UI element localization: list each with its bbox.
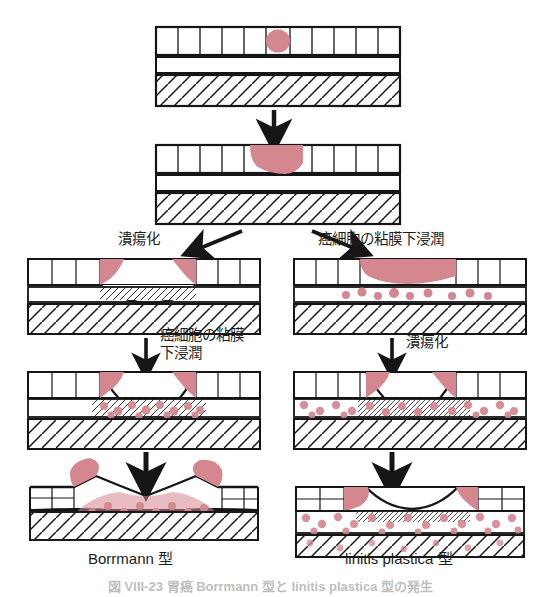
tumor-focus bbox=[266, 30, 290, 53]
panel-mucosal-tumor bbox=[156, 145, 400, 224]
caption-linitis-plastica: linitis plastica 型 bbox=[345, 551, 453, 568]
figure-title-text: 図 VIII-23 胃癌 Borrmann 型と linitis plastic… bbox=[108, 578, 433, 595]
panel-right-submucosal bbox=[294, 259, 526, 334]
stage-label-branch-left: 潰瘍化 bbox=[118, 231, 160, 247]
panel-origin bbox=[156, 27, 400, 106]
gastric-cancer-progression-figure: 潰瘍化 癌細胞の粘膜下浸潤 癌細胞の粘膜 下浸潤 潰瘍化 Borrmann 型 … bbox=[0, 0, 556, 597]
panel-left-invasion bbox=[28, 372, 260, 449]
caption-borrmann: Borrmann 型 bbox=[88, 551, 173, 568]
panel-right-ulcer bbox=[294, 372, 526, 449]
panel-left-ulcer bbox=[28, 259, 260, 334]
stage-label-branch-right: 癌細胞の粘膜下浸潤 bbox=[318, 231, 444, 247]
panel-linitis bbox=[296, 487, 524, 557]
stage-label-mid-left-line2: 下浸潤 bbox=[160, 345, 202, 361]
stage-label-mid-right: 潰瘍化 bbox=[406, 334, 448, 350]
diagram-canvas bbox=[0, 0, 556, 597]
figure-title-cropped: 図 VIII-23 胃癌 Borrmann 型と linitis plastic… bbox=[0, 578, 556, 597]
stage-label-mid-left-line1: 癌細胞の粘膜 bbox=[160, 327, 244, 343]
arrow-branch-left bbox=[198, 231, 242, 249]
